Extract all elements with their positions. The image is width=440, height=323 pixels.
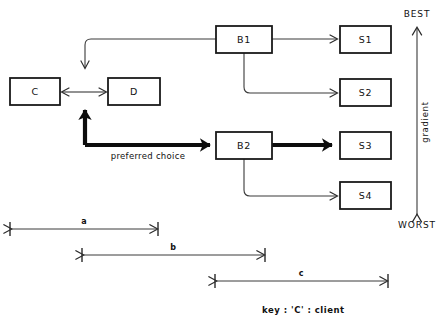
node-s3-label: S3 — [359, 140, 372, 151]
node-d-label: D — [130, 86, 138, 97]
gradient-axis: BEST WORST gradient — [398, 9, 436, 230]
dimension-bar-c: c — [215, 269, 388, 288]
flow-diagram-canvas: preferred choice C D B1 B2 S1 S2 S3 S4 B… — [0, 0, 440, 323]
edge-b1-to-client-junction — [85, 39, 216, 68]
gradient-worst-label: WORST — [398, 220, 436, 230]
gradient-side-label: gradient — [420, 101, 430, 142]
node-b1-label: B1 — [237, 34, 251, 45]
edge-b2-to-s4 — [244, 159, 337, 196]
dimension-a-label: a — [81, 217, 86, 226]
preferred-choice-label: preferred choice — [111, 151, 185, 161]
node-s1-label: S1 — [359, 34, 372, 45]
node-s2[interactable]: S2 — [340, 79, 391, 106]
node-s1[interactable]: S1 — [340, 26, 391, 53]
edge-b1-to-s2 — [244, 53, 337, 93]
dimension-bar-b: b — [82, 243, 265, 262]
node-b2-label: B2 — [237, 140, 251, 151]
node-c[interactable]: C — [10, 78, 60, 105]
dimension-bar-a: a — [10, 217, 158, 236]
node-s3[interactable]: S3 — [340, 132, 391, 159]
dimension-c-label: c — [299, 269, 304, 278]
node-d[interactable]: D — [108, 78, 160, 105]
node-b2[interactable]: B2 — [216, 132, 272, 159]
node-s2-label: S2 — [359, 87, 372, 98]
node-s4-label: S4 — [359, 190, 372, 201]
key-caption: key : 'C' : client — [262, 305, 345, 315]
gradient-best-label: BEST — [404, 9, 431, 19]
node-c-label: C — [31, 86, 38, 97]
dimension-b-label: b — [170, 243, 176, 252]
node-b1[interactable]: B1 — [216, 26, 272, 53]
node-s4[interactable]: S4 — [340, 182, 391, 209]
